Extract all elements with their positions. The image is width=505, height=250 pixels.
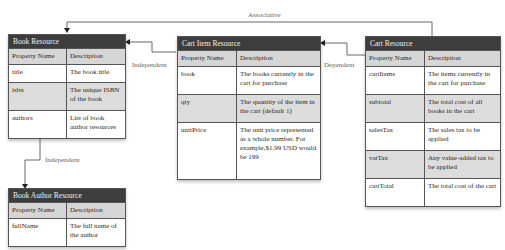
cart-resource-table: Cart Resource Property Name Description … <box>365 36 501 207</box>
header-cell: Description <box>67 203 125 218</box>
table-row: vatTax Any value-added tax to be applied <box>366 150 500 178</box>
property-name: subtotal <box>366 95 425 122</box>
property-description: The unique ISBN of the book <box>67 83 125 110</box>
header-cell: Property Name <box>9 49 67 64</box>
header-cell: Property Name <box>9 203 67 218</box>
table-row: salesTax The sales tax to be applied <box>366 122 500 150</box>
table-row: fullName The full name of the author <box>9 218 125 246</box>
property-name: salesTax <box>366 123 425 150</box>
property-description: The sales tax to be applied <box>425 123 500 150</box>
table-row: book The books currently in the cart for… <box>178 66 320 94</box>
book-author-resource-table: Book Author Resource Property Name Descr… <box>8 188 126 247</box>
property-description: The items currently in the cart for purc… <box>425 67 500 94</box>
property-name: fullName <box>9 219 67 246</box>
property-description: The total cost of the cart <box>425 179 500 206</box>
header-cell: Description <box>425 51 500 66</box>
dependent-label: Dependent <box>324 61 354 69</box>
property-name: unitPrice <box>178 123 237 179</box>
table-header-row: Property Name Description <box>178 50 320 66</box>
property-description: The quantity of the item in the cart (de… <box>237 95 320 122</box>
property-name: vatTax <box>366 151 425 178</box>
header-cell: Description <box>67 49 125 64</box>
independent-label-2: Independent <box>45 156 80 164</box>
table-title: Cart Resource <box>366 37 500 50</box>
table-title: Cart Item Resource <box>178 37 320 50</box>
independent-label-1: Independent <box>132 61 167 69</box>
table-header-row: Property Name Description <box>366 50 500 66</box>
property-description: The books currently in the cart for purc… <box>237 67 320 94</box>
property-name: cartTotal <box>366 179 425 206</box>
property-name: cartItems <box>366 67 425 94</box>
property-name: qty <box>178 95 237 122</box>
table-title: Book Author Resource <box>9 189 125 202</box>
header-cell: Property Name <box>366 51 425 66</box>
table-row: authors List of book author resources <box>9 110 125 138</box>
header-cell: Property Name <box>178 51 237 66</box>
property-description: The book title <box>67 65 125 82</box>
property-description: The total cost of all books in the cart <box>425 95 500 122</box>
table-row: subtotal The total cost of all books in … <box>366 94 500 122</box>
property-name: authors <box>9 111 67 138</box>
table-header-row: Property Name Description <box>9 48 125 64</box>
table-title: Book Resource <box>9 35 125 48</box>
associative-label: Associative <box>248 11 281 19</box>
book-resource-table: Book Resource Property Name Description … <box>8 34 126 139</box>
cart-item-resource-table: Cart Item Resource Property Name Descrip… <box>177 36 321 180</box>
table-row: unitPrice The unit price represented as … <box>178 122 320 179</box>
property-description: List of book author resources <box>67 111 125 138</box>
property-name: title <box>9 65 67 82</box>
table-row: cartTotal The total cost of the cart <box>366 178 500 206</box>
table-header-row: Property Name Description <box>9 202 125 218</box>
property-name: book <box>178 67 237 94</box>
property-description: The unit price represented as a whole nu… <box>237 123 320 179</box>
table-row: cartItems The items currently in the car… <box>366 66 500 94</box>
table-row: qty The quantity of the item in the cart… <box>178 94 320 122</box>
property-description: Any value-added tax to be applied <box>425 151 500 178</box>
header-cell: Description <box>237 51 320 66</box>
table-row: isbn The unique ISBN of the book <box>9 82 125 110</box>
property-name: isbn <box>9 83 67 110</box>
table-row: title The book title <box>9 64 125 82</box>
property-description: The full name of the author <box>67 219 125 246</box>
